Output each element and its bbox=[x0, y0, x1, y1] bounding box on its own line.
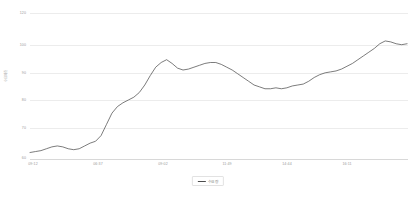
series-line-chart bbox=[30, 10, 408, 160]
y-axis-tick-label: 60 bbox=[22, 156, 26, 160]
x-axis-tick-label: 16:11 bbox=[342, 162, 351, 166]
x-axis-tick-label: 06:37 bbox=[93, 162, 103, 166]
x-axis-tick-label: 09:02 bbox=[158, 162, 168, 166]
x-axis-tick-label: 11:49 bbox=[222, 162, 231, 166]
chart-legend[interactable]: 수요량 bbox=[191, 176, 223, 186]
chart-container: 수요예측 120 100 90 80 70 60 09:12 06:37 09:… bbox=[0, 0, 415, 201]
y-axis-tick-label: 90 bbox=[22, 71, 26, 75]
y-axis-tick-label: 100 bbox=[20, 43, 26, 47]
y-axis-tick-label: 80 bbox=[22, 98, 26, 102]
x-axis-tick-label: 14:44 bbox=[282, 162, 292, 166]
y-axis-tick-labels: 120 100 90 80 70 60 bbox=[0, 10, 28, 160]
plot-area bbox=[30, 10, 408, 160]
legend-line-swatch-icon bbox=[197, 181, 205, 182]
legend-label: 수요량 bbox=[208, 179, 217, 184]
series-path-demand bbox=[30, 41, 407, 153]
x-axis-tick-label: 09:12 bbox=[28, 162, 38, 166]
y-axis-tick-label: 70 bbox=[22, 126, 26, 130]
y-axis-tick-label: 120 bbox=[20, 11, 26, 15]
